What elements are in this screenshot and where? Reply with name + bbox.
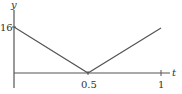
chart: y t 16 0.5 1 (0, 0, 182, 94)
y-axis-label: y (10, 0, 17, 10)
x-tick-label-one: 1 (158, 79, 164, 90)
x-axis-label: t (172, 67, 177, 78)
x-tick-label-half: 0.5 (81, 79, 97, 90)
data-line (14, 27, 161, 73)
y-tick-label-16: 16 (0, 22, 13, 33)
